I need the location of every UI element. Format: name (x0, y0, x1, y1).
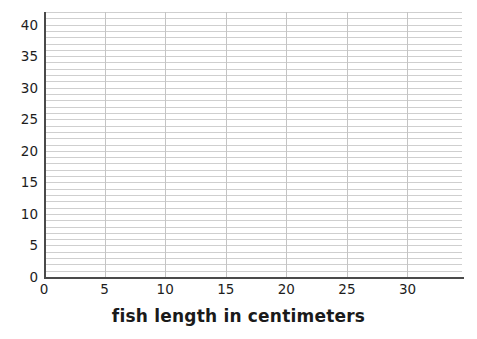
chart-figure: 0510152025303540 051015202530 fish lengt… (0, 0, 477, 339)
gridline-vertical (105, 12, 106, 277)
gridline-horizontal (44, 145, 462, 146)
gridline-horizontal (44, 94, 462, 95)
gridline-vertical (226, 12, 227, 277)
x-axis-title: fish length in centimeters (0, 306, 477, 326)
gridline-horizontal (44, 119, 462, 120)
gridline-horizontal (44, 208, 462, 209)
x-axis-tick-label: 15 (206, 281, 246, 297)
y-axis-tick-label: 20 (0, 143, 38, 159)
y-axis-tick-label: 35 (0, 48, 38, 64)
y-axis-tick-label: 10 (0, 206, 38, 222)
gridline-horizontal (44, 88, 462, 89)
gridline-horizontal (44, 214, 462, 215)
gridline-horizontal (44, 138, 462, 139)
x-axis-tick-label: 25 (327, 281, 367, 297)
gridline-vertical (347, 12, 348, 277)
gridline-horizontal (44, 18, 462, 19)
plot-area (44, 12, 462, 277)
gridline-horizontal (44, 163, 462, 164)
gridline-horizontal (44, 264, 462, 265)
y-axis-tick-label: 15 (0, 174, 38, 190)
gridline-horizontal (44, 126, 462, 127)
gridline-horizontal (44, 252, 462, 253)
gridline-vertical (286, 12, 287, 277)
gridline-horizontal (44, 195, 462, 196)
x-axis-tick-label: 0 (24, 281, 64, 297)
gridline-horizontal (44, 233, 462, 234)
gridline-horizontal (44, 176, 462, 177)
gridline-horizontal (44, 182, 462, 183)
gridline-horizontal (44, 201, 462, 202)
gridline-horizontal (44, 75, 462, 76)
gridline-horizontal (44, 157, 462, 158)
gridline-horizontal (44, 56, 462, 57)
y-axis-tick-label: 5 (0, 237, 38, 253)
gridline-horizontal (44, 151, 462, 152)
gridline-horizontal (44, 69, 462, 70)
gridline-horizontal (44, 62, 462, 63)
gridline-horizontal (44, 44, 462, 45)
gridline-horizontal (44, 258, 462, 259)
y-axis-tick-label: 30 (0, 80, 38, 96)
gridline-horizontal (44, 245, 462, 246)
x-axis-tick-label: 20 (266, 281, 306, 297)
gridline-vertical (165, 12, 166, 277)
x-axis-line (44, 277, 464, 279)
gridline-vertical (407, 12, 408, 277)
y-axis-tick-label: 40 (0, 17, 38, 33)
x-axis-tick-label: 30 (387, 281, 427, 297)
gridline-horizontal (44, 81, 462, 82)
gridline-horizontal (44, 271, 462, 272)
gridline-horizontal (44, 25, 462, 26)
x-axis-tick-label: 5 (85, 281, 125, 297)
gridline-horizontal (44, 189, 462, 190)
gridline-horizontal (44, 12, 462, 13)
x-axis-tick-label: 10 (145, 281, 185, 297)
y-axis-tick-label: 25 (0, 111, 38, 127)
y-axis-line (44, 12, 46, 278)
gridline-horizontal (44, 239, 462, 240)
gridline-horizontal (44, 50, 462, 51)
gridline-horizontal (44, 170, 462, 171)
gridline-horizontal (44, 31, 462, 32)
gridline-horizontal (44, 113, 462, 114)
gridline-horizontal (44, 107, 462, 108)
gridline-horizontal (44, 100, 462, 101)
gridline-horizontal (44, 132, 462, 133)
gridline-horizontal (44, 37, 462, 38)
gridline-horizontal (44, 227, 462, 228)
gridline-horizontal (44, 220, 462, 221)
